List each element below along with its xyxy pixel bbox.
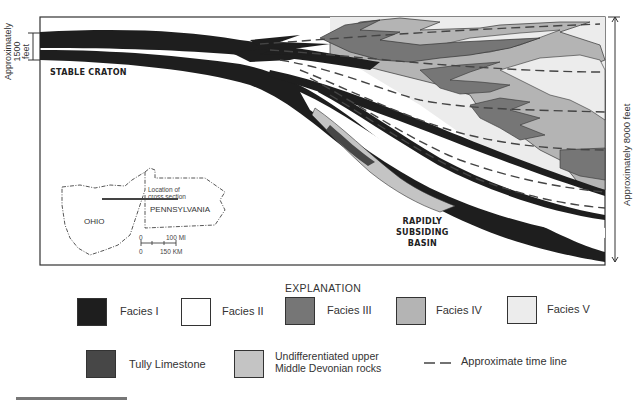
left-scale-label: Approximately 1500 feet — [4, 23, 31, 80]
legend-label-facies-ii: Facies II — [222, 305, 264, 317]
ohio-label: OHIO — [84, 217, 104, 226]
legend-swatch-facies-v — [507, 296, 537, 324]
legend-swatch-tully-limestone — [86, 350, 116, 378]
scale-zero-top: 0 — [139, 234, 143, 241]
location-label-line2: cross section — [148, 193, 186, 200]
legend-label-time-line: Approximate time line — [461, 355, 567, 367]
location-label-line1: Location of — [148, 186, 186, 193]
legend-swatch-facies-iii — [285, 297, 315, 325]
scale-zero-bottom: 0 — [139, 248, 143, 255]
legend-swatch-facies-ii — [181, 298, 211, 326]
legend-swatch-facies-i — [77, 298, 107, 326]
left-scale-label-line3: feet — [22, 23, 31, 80]
legend-swatch-undifferentiated — [234, 350, 264, 378]
right-scale-label: Approximately 8000 feet — [621, 102, 632, 208]
legend-label-facies-iv: Facies IV — [436, 304, 482, 316]
basin-label-line3: BASIN — [396, 237, 449, 248]
legend-label-facies-iii: Facies III — [327, 304, 372, 316]
right-scale-bar — [608, 17, 620, 262]
legend-label-undifferentiated: Undifferentiated upper Middle Devonian r… — [275, 350, 381, 374]
cross-section-diagram — [0, 0, 638, 270]
basin-label: RAPIDLY SUBSIDING BASIN — [396, 215, 449, 248]
legend-label-tully-limestone: Tully Limestone — [129, 358, 206, 370]
scale-km-label: 150 KM — [160, 248, 182, 255]
legend-label-undifferentiated-line2: Middle Devonian rocks — [275, 362, 381, 374]
stable-craton-label: STABLE CRATON — [50, 66, 127, 77]
legend-swatch-facies-iv — [396, 297, 426, 325]
location-label: Location of cross section — [148, 186, 186, 200]
pennsylvania-label: PENNSYLVANIA — [150, 205, 210, 214]
legend-dashed-line-symbol — [424, 360, 454, 366]
legend-label-facies-i: Facies I — [120, 305, 159, 317]
basin-label-line1: RAPIDLY — [396, 215, 449, 226]
basin-label-line2: SUBSIDING — [396, 226, 449, 237]
legend-label-undifferentiated-line1: Undifferentiated upper — [275, 350, 381, 362]
legend-label-facies-v: Facies V — [547, 303, 590, 315]
bottom-rule — [16, 397, 127, 400]
scale-mi-label: 100 MI — [166, 234, 186, 241]
legend-title: EXPLANATION — [285, 282, 361, 294]
